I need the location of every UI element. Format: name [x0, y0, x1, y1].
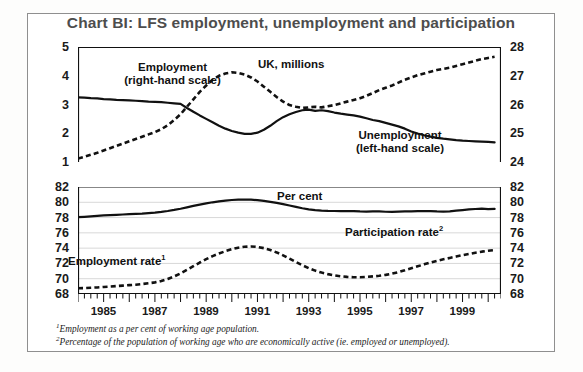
top-left-tick-4: 4 — [35, 70, 69, 83]
footnote-1: 1Employment as a per cent of working age… — [56, 322, 259, 334]
bottom-right-tick-82: 82 — [510, 181, 524, 194]
top-right-tick-24: 24 — [510, 156, 524, 169]
year-label-1987: 1987 — [142, 305, 168, 317]
footnote-1-text: Employment as a per cent of working age … — [60, 324, 260, 334]
participation-rate-footnote-marker: 2 — [439, 224, 443, 233]
top-left-tick-1: 1 — [35, 156, 69, 169]
bottom-left-tick-72: 72 — [35, 257, 69, 270]
top-unit-label: UK, millions — [258, 58, 324, 71]
bottom-right-tick-78: 78 — [510, 212, 524, 225]
top-unemployment-label-line1: Unemployment — [358, 129, 441, 141]
employment-rate-label-text: Employment rate — [68, 255, 161, 267]
bottom-left-tick-68: 68 — [35, 288, 69, 301]
bottom-left-tick-76: 76 — [35, 227, 69, 240]
bottom-left-tick-80: 80 — [35, 196, 69, 209]
top-right-tick-26: 26 — [510, 99, 524, 112]
chart-page: Chart BI: LFS employment, unemployment a… — [0, 0, 583, 372]
year-label-1997: 1997 — [398, 305, 424, 317]
top-unemployment-label: Unemployment (left-hand scale) — [330, 129, 470, 155]
top-employment-label-line1: Employment — [138, 61, 207, 73]
top-left-tick-2: 2 — [35, 127, 69, 140]
bottom-unit-label: Per cent — [277, 190, 322, 203]
year-label-1993: 1993 — [296, 305, 322, 317]
year-label-1991: 1991 — [244, 305, 270, 317]
participation-rate-label: Participation rate2 — [345, 222, 443, 239]
employment-rate-label: Employment rate1 — [68, 251, 165, 268]
page-title: Chart BI: LFS employment, unemployment a… — [27, 14, 555, 32]
bottom-right-tick-72: 72 — [510, 257, 524, 270]
top-unemployment-label-line2: (left-hand scale) — [356, 142, 444, 154]
bottom-right-tick-80: 80 — [510, 196, 524, 209]
footnote-2: 2Percentage of the population of working… — [56, 335, 450, 347]
year-label-1999: 1999 — [450, 305, 476, 317]
bottom-right-tick-70: 70 — [510, 273, 524, 286]
participation-rate-label-text: Participation rate — [345, 226, 439, 238]
bottom-left-tick-74: 74 — [35, 242, 69, 255]
top-left-tick-3: 3 — [35, 99, 69, 112]
top-employment-label: Employment (right-hand scale) — [100, 61, 245, 87]
bottom-left-tick-82: 82 — [35, 181, 69, 194]
bottom-right-tick-68: 68 — [510, 288, 524, 301]
bottom-left-tick-78: 78 — [35, 212, 69, 225]
top-right-tick-27: 27 — [510, 70, 524, 83]
bottom-chart-plot — [78, 187, 501, 294]
bottom-right-tick-76: 76 — [510, 227, 524, 240]
bottom-unit-label-text: Per cent — [277, 190, 322, 202]
top-unit-label-text: UK, millions — [258, 58, 324, 70]
top-employment-label-line2: (right-hand scale) — [124, 74, 220, 86]
year-label-1985: 1985 — [91, 305, 117, 317]
bottom-right-tick-74: 74 — [510, 242, 524, 255]
year-label-1989: 1989 — [193, 305, 219, 317]
top-right-tick-25: 25 — [510, 127, 524, 140]
bottom-chart-panel — [78, 187, 501, 294]
top-left-tick-5: 5 — [35, 41, 69, 54]
year-label-1995: 1995 — [347, 305, 373, 317]
bottom-left-tick-70: 70 — [35, 273, 69, 286]
footnote-2-text: Percentage of the population of working … — [60, 337, 450, 347]
top-right-tick-28: 28 — [510, 41, 524, 54]
employment-rate-footnote-marker: 1 — [161, 253, 165, 262]
